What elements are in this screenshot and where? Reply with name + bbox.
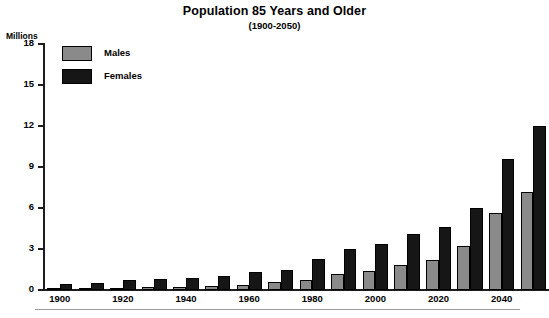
bar-males-1960 xyxy=(237,285,250,290)
bar-males-2010 xyxy=(394,265,407,290)
x-tick-label-1940: 1940 xyxy=(166,293,206,304)
bar-females-1960 xyxy=(249,272,262,290)
y-tick-label: 9 xyxy=(4,160,34,171)
bar-males-1970 xyxy=(268,282,281,290)
legend-swatch-males xyxy=(62,46,92,61)
legend-label-males: Males xyxy=(104,47,130,58)
x-tick-label-2020: 2020 xyxy=(419,293,459,304)
bar-males-2030 xyxy=(457,246,470,290)
bar-males-1910 xyxy=(79,288,92,290)
x-tick-label-1980: 1980 xyxy=(292,293,332,304)
bar-females-1940 xyxy=(186,278,199,290)
bar-females-2020 xyxy=(439,227,452,290)
bar-females-1990 xyxy=(344,249,357,290)
bar-females-1910 xyxy=(91,283,104,290)
bar-males-1940 xyxy=(173,287,186,290)
footer-divider xyxy=(35,309,520,310)
chart-subtitle: (1900-2050) xyxy=(0,20,549,31)
bar-males-1990 xyxy=(331,274,344,290)
y-tick-label: 6 xyxy=(4,201,34,212)
bar-females-2030 xyxy=(470,208,483,290)
bar-males-2020 xyxy=(426,260,439,290)
bar-females-2040 xyxy=(502,159,515,290)
bar-males-2050 xyxy=(521,192,534,290)
bar-males-2000 xyxy=(363,271,376,290)
legend-swatch-females xyxy=(62,69,92,84)
y-tick-label: 0 xyxy=(4,283,34,294)
bar-females-2050 xyxy=(533,126,546,290)
chart-title: Population 85 Years and Older xyxy=(0,4,549,18)
bar-males-2040 xyxy=(489,213,502,290)
bar-females-1970 xyxy=(281,270,294,291)
x-tick-label-1900: 1900 xyxy=(40,293,80,304)
bar-males-1980 xyxy=(300,280,313,290)
x-tick-label-2040: 2040 xyxy=(482,293,522,304)
y-tick-label: 15 xyxy=(4,78,34,89)
bar-males-1900 xyxy=(47,288,60,290)
bar-females-2000 xyxy=(375,244,388,290)
bar-females-2010 xyxy=(407,234,420,290)
x-tick-label-1920: 1920 xyxy=(103,293,143,304)
x-tick-label-2000: 2000 xyxy=(355,293,395,304)
chart-container: Population 85 Years and Older (1900-2050… xyxy=(0,0,549,318)
bar-females-1930 xyxy=(154,279,167,290)
legend-label-females: Females xyxy=(104,70,142,81)
bar-males-1950 xyxy=(205,286,218,290)
bar-males-1920 xyxy=(110,288,123,290)
bar-females-1950 xyxy=(218,276,231,290)
y-tick-label: 18 xyxy=(4,37,34,48)
bar-females-1980 xyxy=(312,259,325,290)
y-tick-label: 3 xyxy=(4,242,34,253)
x-tick-label-1960: 1960 xyxy=(229,293,269,304)
y-tick-label: 12 xyxy=(4,119,34,130)
bar-males-1930 xyxy=(142,287,155,290)
bar-females-1920 xyxy=(123,280,136,290)
bar-females-1900 xyxy=(60,284,73,290)
